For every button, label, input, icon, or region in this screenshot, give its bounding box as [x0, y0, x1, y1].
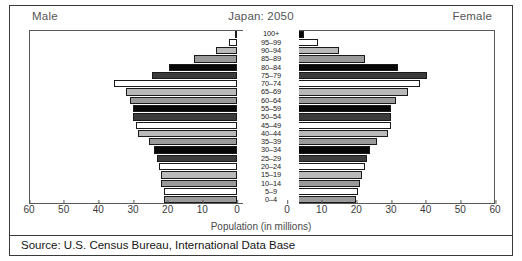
- bar-row: [287, 38, 495, 46]
- male-bars-panel: [29, 30, 237, 204]
- x-axis-tick-mark: [133, 200, 134, 204]
- female-bar: [287, 188, 358, 195]
- bar-row: [29, 146, 237, 154]
- bar-row: [29, 179, 237, 187]
- bar-row: [29, 96, 237, 104]
- bar-row: [29, 121, 237, 129]
- bar-row: [29, 47, 237, 55]
- female-bar: [287, 39, 318, 46]
- x-axis-tick: 40: [93, 204, 104, 215]
- bar-row: [29, 163, 237, 171]
- x-axis-tick-mark: [460, 200, 461, 204]
- bar-row: [29, 38, 237, 46]
- male-bar: [154, 146, 237, 153]
- x-axis-tick: 10: [316, 204, 327, 215]
- x-axis-tick: 30: [385, 204, 396, 215]
- bar-row: [287, 30, 495, 38]
- x-axis-tick-mark: [495, 200, 496, 204]
- bar-row: [287, 55, 495, 63]
- bar-row: [29, 113, 237, 121]
- male-bar: [169, 64, 237, 71]
- female-bar: [287, 88, 408, 95]
- bar-row: [287, 179, 495, 187]
- bar-row: [29, 88, 237, 96]
- male-bar: [136, 122, 237, 129]
- female-bar: [287, 155, 367, 162]
- x-axis-tick-mark: [237, 200, 238, 204]
- bar-row: [287, 105, 495, 113]
- bar-row: [287, 63, 495, 71]
- male-bar: [149, 138, 237, 145]
- male-bar: [161, 171, 237, 178]
- x-axis-tick: 50: [58, 204, 69, 215]
- female-bar: [287, 64, 398, 71]
- female-bar: [287, 31, 304, 38]
- x-axis-left-ticks: 6050403020100: [29, 204, 237, 222]
- bar-row: [287, 71, 495, 79]
- bar-row: [287, 80, 495, 88]
- x-axis-tick-mark: [287, 200, 288, 204]
- bar-row: [287, 113, 495, 121]
- female-bar: [287, 122, 391, 129]
- male-bar-rows: [29, 30, 237, 204]
- female-bar: [287, 72, 427, 79]
- x-axis-tick: 0: [284, 204, 290, 215]
- chart-frame: Male Japan: 2050 Female 100+95–9990–9485…: [9, 5, 513, 256]
- male-bar: [152, 72, 237, 79]
- female-bar: [287, 47, 339, 54]
- male-bar: [164, 196, 237, 203]
- chart-title: Japan: 2050: [10, 10, 512, 22]
- bar-row: [287, 47, 495, 55]
- female-bar-rows: [287, 30, 495, 204]
- x-axis-tick-mark: [426, 200, 427, 204]
- male-bar: [114, 80, 237, 87]
- bar-row: [287, 121, 495, 129]
- x-axis-tick: 40: [420, 204, 431, 215]
- male-bar: [216, 47, 237, 54]
- x-axis-tick-mark: [168, 200, 169, 204]
- bar-row: [29, 105, 237, 113]
- male-bar: [161, 180, 237, 187]
- bar-row: [287, 129, 495, 137]
- x-axis-tick-mark: [29, 200, 30, 204]
- bar-row: [287, 146, 495, 154]
- female-bar: [287, 130, 388, 137]
- male-bar: [229, 39, 237, 46]
- female-bar: [287, 180, 360, 187]
- bar-row: [287, 154, 495, 162]
- male-bar: [159, 163, 237, 170]
- x-axis-tick-mark: [98, 200, 99, 204]
- female-side-label: Female: [452, 10, 492, 22]
- bar-row: [287, 163, 495, 171]
- female-bar: [287, 113, 391, 120]
- bar-row: [29, 187, 237, 195]
- x-axis-right-ticks: 0102030405060: [287, 204, 495, 222]
- bar-row: [29, 63, 237, 71]
- x-axis-tick-mark: [356, 200, 357, 204]
- source-divider: [10, 235, 512, 236]
- x-axis-tick-mark: [202, 200, 203, 204]
- x-axis-tick-mark: [391, 200, 392, 204]
- male-bar: [130, 97, 237, 104]
- female-bar: [287, 55, 365, 62]
- plot-area: [29, 30, 495, 204]
- bar-row: [29, 138, 237, 146]
- male-bar: [164, 188, 237, 195]
- x-axis-tick: 50: [455, 204, 466, 215]
- x-axis-label: Population (in millions): [10, 221, 512, 232]
- female-bar: [287, 171, 362, 178]
- male-bar: [126, 88, 237, 95]
- male-bar: [133, 113, 237, 120]
- x-axis-tick: 20: [351, 204, 362, 215]
- female-bar: [287, 163, 365, 170]
- source-text: Source: U.S. Census Bureau, Internationa…: [21, 239, 295, 251]
- bar-row: [287, 88, 495, 96]
- male-bar: [235, 31, 237, 38]
- x-axis-tick: 30: [127, 204, 138, 215]
- x-axis-tick: 20: [162, 204, 173, 215]
- male-bar: [133, 105, 237, 112]
- male-bar: [157, 155, 237, 162]
- bar-row: [29, 171, 237, 179]
- male-bar: [138, 130, 237, 137]
- female-bars-panel: [287, 30, 495, 204]
